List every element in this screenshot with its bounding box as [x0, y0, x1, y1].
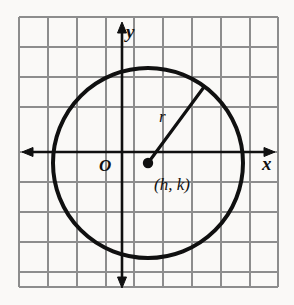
coordinate-plane-canvas: y x O r (h, k) — [0, 0, 294, 305]
x-axis-label: x — [261, 153, 272, 174]
y-axis-label: y — [124, 21, 135, 42]
circle-diagram-figure: y x O r (h, k) — [0, 0, 294, 305]
center-point-dot — [143, 158, 153, 168]
radius-label: r — [159, 107, 166, 126]
origin-label: O — [99, 156, 111, 175]
center-point-label: (h, k) — [154, 175, 190, 194]
